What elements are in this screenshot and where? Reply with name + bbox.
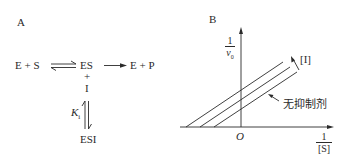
- lineweaver-burk-lines: [186, 62, 297, 127]
- x-axis-label: 1 [S]: [315, 131, 333, 154]
- increasing-inhibitor-arrow-icon: [291, 56, 299, 70]
- y-axis-subscript: 0: [231, 54, 234, 60]
- diagram-graphics: [0, 0, 346, 162]
- no-inhibitor-label: 无抑制剂: [283, 95, 327, 111]
- x-axis-denominator: [S]: [316, 142, 332, 154]
- forward-arrow-icon: [104, 63, 127, 67]
- no-inhibitor-pointer-icon: [268, 94, 279, 101]
- y-axis-numerator: 1: [224, 35, 236, 46]
- origin-label: O: [236, 130, 244, 142]
- x-axis-numerator: 1: [315, 131, 333, 142]
- y-axis-label: 1 v0: [224, 35, 236, 63]
- equilibrium-arrow-icon: [51, 61, 76, 71]
- x-axis: [180, 125, 334, 129]
- panel-b-label: B: [209, 13, 216, 25]
- vertical-equilibrium-arrow-icon: [82, 101, 92, 129]
- inhibitor-concentration-label: [I]: [300, 53, 311, 65]
- line-mid-inhibitor: [200, 67, 290, 127]
- y-axis: [239, 27, 243, 127]
- fraction-bar: v0: [225, 46, 235, 63]
